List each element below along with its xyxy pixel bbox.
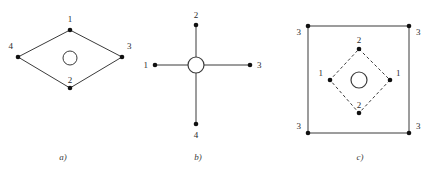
panel-b-group: 1 2 3 4 [144,10,263,140]
panel-c-node-bottom [357,111,362,116]
panel-b-node-3 [248,63,253,68]
panel-a-node-3 [120,55,125,60]
panel-a-hub-circle [63,51,77,65]
panel-c-node-left [328,78,333,83]
panel-c-node-top [357,47,362,52]
panel-a-group: 1 2 3 4 [9,14,133,90]
panel-c-corner-label-bottom-left: 3 [297,121,302,131]
panel-a-label-3: 3 [127,41,132,51]
panel-c-label-top: 2 [357,35,362,45]
panel-c-group: 3 3 3 3 2 1 1 2 [297,24,422,136]
panel-a-label-1: 1 [68,14,73,24]
panel-c-corner-node-top-left [306,24,311,29]
panel-b-node-4 [194,122,199,127]
panel-c-label-left: 1 [319,68,324,78]
panel-b-node-1 [153,63,158,68]
panel-a-node-4 [16,55,21,60]
panel-b-node-2 [194,23,199,28]
panel-b-label-2: 2 [194,10,199,20]
panel-c-hub-circle [351,72,367,88]
panel-c-corner-node-bottom-left [306,131,311,136]
panel-b-label-4: 4 [194,130,199,140]
panel-b-label-3: 3 [257,60,262,70]
panel-b-hub-circle [188,57,204,73]
panel-c-label-bottom: 2 [357,100,362,110]
panel-c-corner-label-top-right: 3 [416,27,421,37]
panel-a-label-4: 4 [9,41,14,51]
panel-caption-a: a) [48,152,78,162]
figure-container: 1 2 3 4 1 2 3 4 [0,0,432,179]
panel-b-label-1: 1 [144,60,149,70]
panel-c-node-right [388,78,393,83]
panel-caption-c: c) [345,152,375,162]
panel-c-corner-label-bottom-right: 3 [416,121,421,131]
panel-a-node-2 [68,86,73,91]
panel-a-label-2: 2 [68,75,73,85]
panel-c-label-right: 1 [396,68,401,78]
panel-c-corner-node-top-right [407,24,412,29]
panel-c-corner-node-bottom-right [407,131,412,136]
panel-a-node-1 [68,28,73,33]
panel-c-corner-label-top-left: 3 [297,27,302,37]
panel-caption-b: b) [183,152,213,162]
